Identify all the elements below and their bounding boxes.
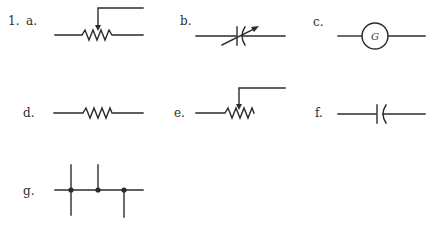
symbols-canvas: G — [0, 0, 440, 228]
junction-dot — [121, 187, 126, 192]
generator-icon: G — [338, 23, 425, 49]
generator-glyph: G — [371, 31, 379, 42]
variable-capacitor-icon — [196, 26, 285, 45]
junction-dot — [95, 187, 100, 192]
potentiometer-icon — [196, 88, 285, 118]
junction-dot — [68, 187, 73, 192]
potentiometer-icon — [55, 8, 143, 40]
capacitor-icon — [338, 105, 425, 123]
resistor-icon — [54, 108, 143, 118]
wire-junctions-icon — [55, 165, 143, 217]
